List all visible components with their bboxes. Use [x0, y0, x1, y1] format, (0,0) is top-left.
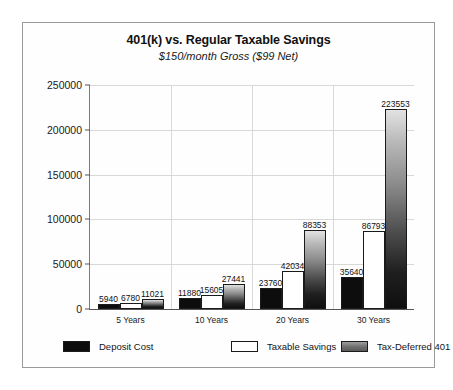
bar-deposit[interactable]: 5940	[98, 304, 120, 309]
bar-value-label: 11880	[178, 288, 201, 298]
bar-value-label: 11021	[141, 289, 164, 299]
group-separator	[252, 85, 253, 309]
bar-deferred[interactable]: 11021	[142, 299, 164, 309]
bar-deposit[interactable]: 11880	[179, 298, 201, 309]
chart-legend: Deposit CostTaxable SavingsTax-Deferred …	[31, 335, 428, 357]
legend-item-deferred[interactable]: Tax-Deferred 401	[341, 335, 450, 357]
bar-value-label: 86793	[362, 221, 386, 231]
bar-value-label: 223553	[381, 99, 409, 109]
bar-deposit[interactable]: 35640	[341, 277, 363, 309]
legend-label: Deposit Cost	[99, 341, 153, 352]
bar-value-label: 27441	[222, 274, 246, 284]
bar-deferred[interactable]: 223553	[385, 109, 407, 309]
y-tick-mark	[85, 309, 90, 310]
chart-title: 401(k) vs. Regular Taxable Savings	[23, 33, 434, 48]
y-axis-tick-label: 100000	[47, 213, 82, 225]
chart-subtitle: $150/month Gross ($99 Net)	[23, 49, 434, 64]
bar-value-label: 15605	[200, 285, 224, 295]
y-tick-mark	[85, 129, 90, 130]
bar-taxable[interactable]: 42034	[282, 271, 304, 309]
plot-area: 0500001000001500002000002500005940678011…	[89, 85, 414, 310]
x-axis-category-label: 10 Years	[195, 315, 228, 325]
bar-value-label: 5940	[99, 294, 118, 304]
group-separator	[333, 85, 334, 309]
bar-value-label: 42034	[281, 261, 305, 271]
bar-deferred[interactable]: 27441	[223, 284, 245, 309]
x-axis-category-label: 30 Years	[357, 315, 390, 325]
bar-deposit[interactable]: 23760	[260, 288, 282, 309]
x-axis-category-label: 20 Years	[276, 315, 309, 325]
legend-swatch-icon	[231, 341, 258, 352]
bar-group: 23760420348835320 Years	[260, 85, 326, 309]
legend-swatch-icon	[63, 341, 90, 352]
bar-value-label: 35640	[340, 267, 364, 277]
y-tick-mark	[85, 219, 90, 220]
bar-value-label: 23760	[259, 278, 283, 288]
y-axis-tick-label: 0	[76, 303, 82, 315]
y-axis-tick-label: 200000	[47, 124, 82, 136]
y-axis-tick-label: 50000	[53, 258, 82, 270]
bar-group: 59406780110215 Years	[98, 85, 164, 309]
bar-taxable[interactable]: 86793	[363, 231, 385, 309]
legend-item-deposit[interactable]: Deposit Cost	[63, 335, 153, 357]
bar-taxable[interactable]: 6780	[120, 303, 142, 309]
y-axis-tick-label: 150000	[47, 169, 82, 181]
group-separator	[171, 85, 172, 309]
chart-frame: 401(k) vs. Regular Taxable Savings $150/…	[22, 22, 435, 368]
bar-deferred[interactable]: 88353	[304, 230, 326, 309]
legend-item-taxable[interactable]: Taxable Savings	[231, 335, 336, 357]
legend-label: Taxable Savings	[267, 341, 336, 352]
x-axis-category-label: 5 Years	[116, 315, 144, 325]
bar-taxable[interactable]: 15605	[201, 295, 223, 309]
y-axis-tick-label: 250000	[47, 79, 82, 91]
y-tick-mark	[85, 85, 90, 86]
title-block: 401(k) vs. Regular Taxable Savings $150/…	[23, 33, 434, 64]
bar-value-label: 6780	[121, 293, 140, 303]
y-tick-mark	[85, 264, 90, 265]
bar-group: 11880156052744110 Years	[179, 85, 245, 309]
legend-label: Tax-Deferred 401	[377, 341, 450, 352]
y-tick-mark	[85, 174, 90, 175]
bar-group: 356408679322355330 Years	[341, 85, 407, 309]
legend-swatch-icon	[341, 341, 368, 352]
bar-value-label: 88353	[303, 220, 327, 230]
